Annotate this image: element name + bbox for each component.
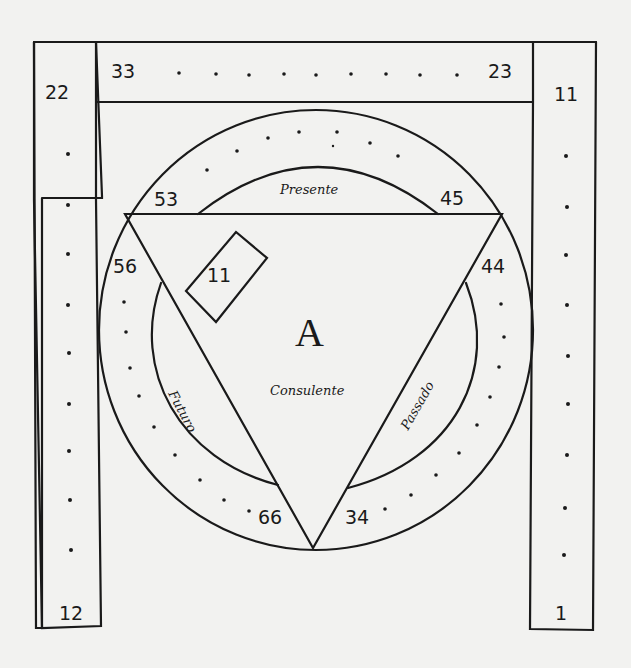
triangle-bottom-right-number: 34	[345, 508, 369, 527]
passado-arc	[348, 283, 477, 488]
triangle-top-right-number: 45	[440, 189, 464, 208]
right-column-bottom-number: 1	[555, 604, 567, 623]
left-column-top-number: 22	[45, 83, 69, 102]
top-bar-right-number: 23	[488, 62, 512, 81]
triangle-top-left-number: 53	[154, 190, 178, 209]
left-column-frame	[34, 42, 102, 628]
triangle-left-upper-number: 56	[113, 257, 137, 276]
left-column-outline	[34, 42, 101, 197]
arc-label-presente: Presente	[280, 183, 338, 196]
triangle-bottom-left-number: 66	[258, 508, 282, 527]
central-triangle	[125, 214, 502, 548]
futuro-arc	[152, 283, 278, 485]
left-column-border	[34, 42, 101, 628]
triangle-right-upper-number: 44	[481, 257, 505, 276]
center-label: Consulente	[270, 384, 344, 397]
left-column-bottom-number: 12	[59, 604, 83, 623]
right-column-top-number: 11	[554, 85, 578, 104]
right-column-border	[530, 42, 596, 630]
center-letter: A	[295, 313, 324, 353]
top-bar-left-number: 33	[111, 62, 135, 81]
inner-box-number: 11	[207, 266, 231, 285]
